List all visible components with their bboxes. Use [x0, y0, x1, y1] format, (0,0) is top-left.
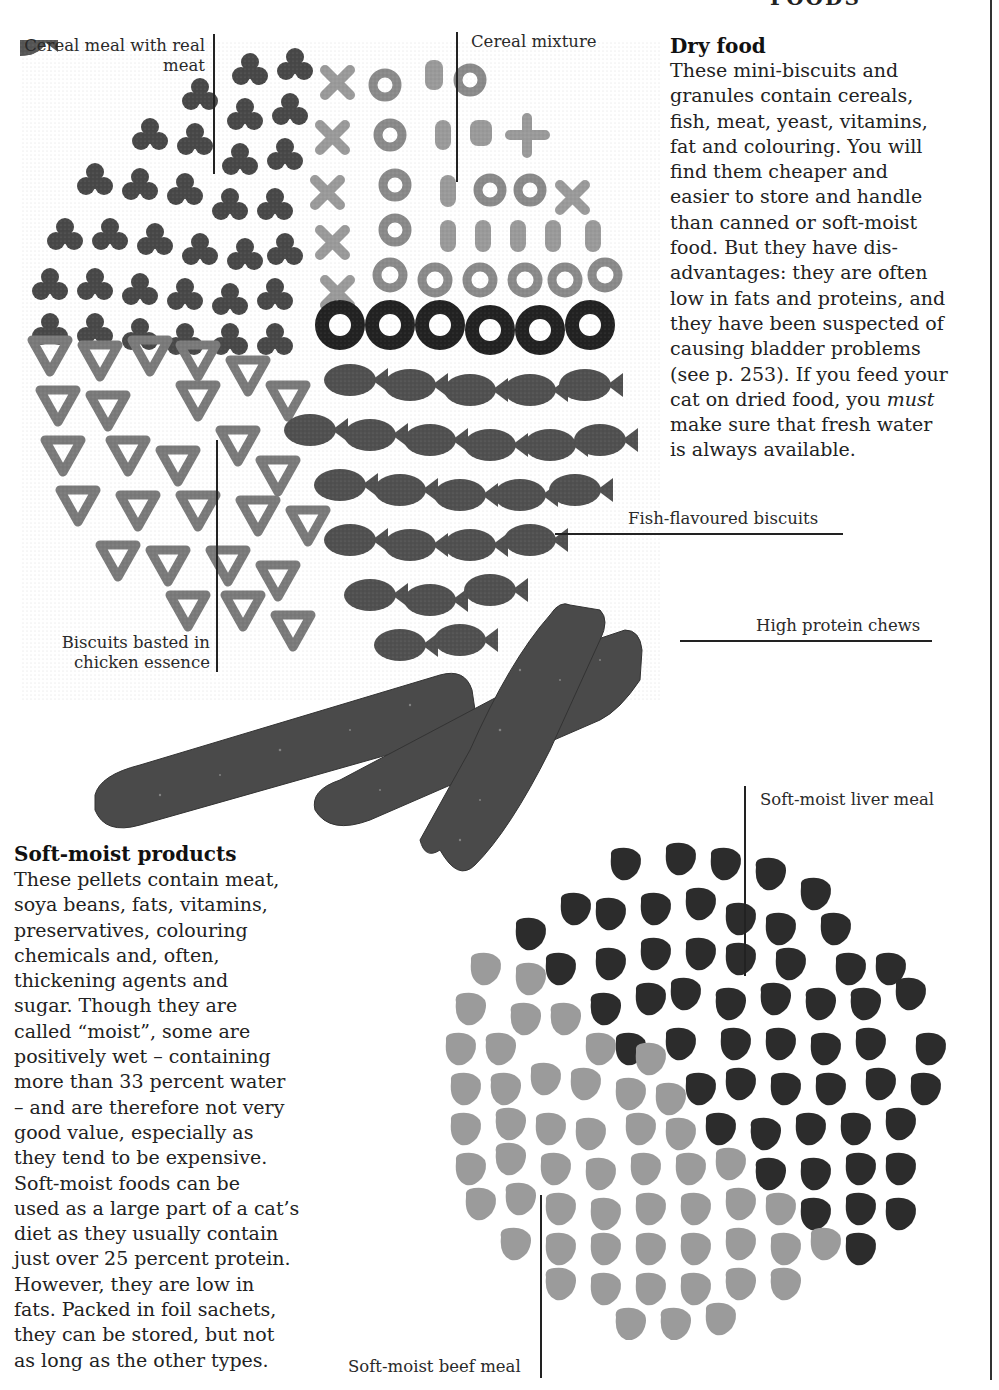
soft-moist-line: positively wet – containing — [14, 1044, 299, 1069]
soft-moist-line: chemicals and, often, — [14, 943, 299, 968]
leader-line-fish-biscuits — [555, 533, 843, 535]
label-cereal-meal-line1: Cereal meal with real — [24, 36, 205, 56]
dry-food-line: is always available. — [670, 437, 948, 462]
soft-moist-line: more than 33 percent water — [14, 1069, 299, 1094]
soft-moist-line: However, they are low in — [14, 1272, 299, 1297]
leader-line-chicken-biscuits — [216, 440, 218, 672]
soft-moist-line: they can be stored, but not — [14, 1322, 299, 1347]
leader-line-beef-meal — [540, 1195, 542, 1378]
label-high-protein-chews: High protein chews — [756, 616, 920, 636]
soft-moist-line: called “moist”, some are — [14, 1019, 299, 1044]
leader-line-high-protein — [680, 640, 932, 642]
dry-food-line: than canned or soft-moist — [670, 210, 948, 235]
dry-food-line: low in fats and proteins, and — [670, 286, 948, 311]
label-chicken-line1: Biscuits basted in — [62, 633, 210, 653]
soft-moist-line: as long as the other types. — [14, 1348, 299, 1373]
dry-food-line: fish, meat, yeast, vitamins, — [670, 109, 948, 134]
label-chicken-biscuits: Biscuits basted in chicken essence — [62, 633, 210, 673]
emphasis-must: must — [887, 388, 935, 410]
soft-moist-line: thickening agents and — [14, 968, 299, 993]
dry-food-line: food. But they have dis- — [670, 235, 948, 260]
soft-moist-line: These pellets contain meat, — [14, 867, 299, 892]
soft-moist-line: fats. Packed in foil sachets, — [14, 1297, 299, 1322]
dry-food-line-with-emphasis: cat on dried food, you must — [670, 387, 948, 412]
soft-moist-line: diet as they usually contain — [14, 1221, 299, 1246]
dry-food-line: granules contain cereals, — [670, 83, 948, 108]
leader-line-cereal-mixture — [456, 32, 458, 182]
dry-food-line: causing bladder problems — [670, 336, 948, 361]
label-cereal-mixture: Cereal mixture — [471, 32, 597, 52]
label-cereal-meal: Cereal meal with real meat — [24, 36, 205, 76]
soft-moist-line: just over 25 percent protein. — [14, 1246, 299, 1271]
dry-food-line-text: cat on dried food, you — [670, 388, 887, 410]
label-cereal-meal-line2: meat — [24, 56, 205, 76]
dry-food-line: advantages: they are often — [670, 260, 948, 285]
leader-line-liver-meal — [744, 786, 746, 976]
soft-moist-line: Soft-moist foods can be — [14, 1171, 299, 1196]
label-chicken-line2: chicken essence — [62, 653, 210, 673]
dry-food-body: These mini-biscuits and granules contain… — [670, 58, 948, 463]
page-header-fragment: FOODS — [770, 0, 861, 10]
page-right-border — [990, 0, 992, 1380]
dry-food-line: easier to store and handle — [670, 184, 948, 209]
label-beef-meal: Soft-moist beef meal — [348, 1357, 521, 1377]
soft-moist-line: soya beans, fats, vitamins, — [14, 892, 299, 917]
dry-food-line: fat and colouring. You will — [670, 134, 948, 159]
dry-food-line: make sure that fresh water — [670, 412, 948, 437]
soft-moist-line: they tend to be expensive. — [14, 1145, 299, 1170]
dry-food-line: find them cheaper and — [670, 159, 948, 184]
label-liver-meal: Soft-moist liver meal — [760, 790, 934, 810]
soft-moist-line: used as a large part of a cat’s — [14, 1196, 299, 1221]
soft-moist-line: sugar. Though they are — [14, 993, 299, 1018]
dry-food-line: (see p. 253). If you feed your — [670, 362, 948, 387]
soft-moist-heading: Soft-moist products — [14, 842, 237, 866]
soft-moist-line: good value, especially as — [14, 1120, 299, 1145]
dry-food-heading: Dry food — [670, 34, 766, 58]
dry-food-line: they have been suspected of — [670, 311, 948, 336]
leader-line-cereal-meal — [213, 34, 215, 174]
soft-moist-body: These pellets contain meat, soya beans, … — [14, 867, 299, 1373]
label-fish-biscuits: Fish-flavoured biscuits — [628, 509, 818, 529]
soft-moist-line: preservatives, colouring — [14, 918, 299, 943]
dry-food-line: These mini-biscuits and — [670, 58, 948, 83]
soft-moist-pellets-photo — [440, 840, 960, 1340]
soft-moist-line: – and are therefore not very — [14, 1095, 299, 1120]
